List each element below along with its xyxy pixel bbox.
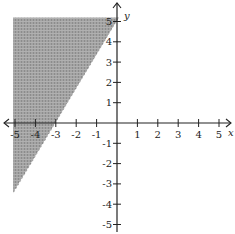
y-tick-label: 5 [106,16,112,27]
x-tick-label: 5 [216,129,222,140]
y-tick-label: -2 [102,158,112,169]
x-tick-label: -4 [31,129,41,140]
y-tick-label: -5 [102,219,112,230]
x-tick-label: -5 [10,129,20,140]
y-tick-label: 4 [106,36,112,47]
y-tick-label: -1 [102,138,112,149]
y-tick-label: -3 [102,178,112,189]
x-tick-label: -2 [71,129,81,140]
x-tick-label: 2 [155,129,161,140]
x-tick-label: -3 [51,129,61,140]
x-tick-label: 3 [175,129,181,140]
x-axis-label: x [228,127,234,138]
y-tick-label: 1 [106,97,112,108]
y-tick-label: 3 [106,57,112,68]
inequality-graph: -5-4-3-2-112345-5-4-3-2-112345 x y [0,0,235,234]
x-tick-label: 1 [134,129,140,140]
y-axis-label: y [123,10,130,21]
y-tick-label: -4 [102,199,112,210]
y-tick-label: 2 [106,77,112,88]
x-tick-label: -1 [92,129,102,140]
x-tick-label: 4 [195,129,201,140]
